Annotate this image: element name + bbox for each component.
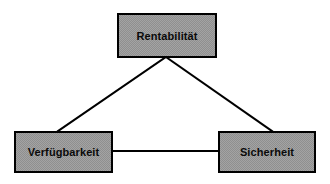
connector-rentabilitaet-verfuegbarkeit <box>58 57 166 131</box>
node-verfuegbarkeit-label: Verfügbarkeit <box>28 146 100 158</box>
node-rentabilitaet[interactable]: Rentabilität <box>117 13 217 58</box>
diagram-canvas: Rentabilität Verfügbarkeit Sicherheit <box>0 0 330 184</box>
node-sicherheit-label: Sicherheit <box>240 146 294 158</box>
connector-rentabilitaet-sicherheit <box>166 57 272 131</box>
node-rentabilitaet-label: Rentabilität <box>136 30 197 42</box>
node-sicherheit[interactable]: Sicherheit <box>218 131 316 173</box>
node-verfuegbarkeit[interactable]: Verfügbarkeit <box>14 131 113 173</box>
